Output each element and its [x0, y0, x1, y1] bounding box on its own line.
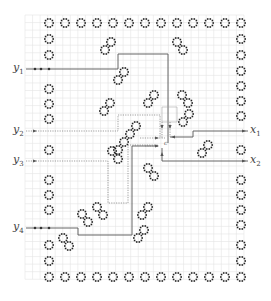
border-ring-top [172, 18, 182, 28]
pair-ring-b [98, 210, 108, 220]
border-ring-right [236, 96, 246, 106]
center-marker-label: c [164, 139, 168, 146]
border-ring-right [236, 190, 246, 200]
border-ring-top [140, 18, 150, 28]
border-ring-bottom [188, 272, 198, 282]
pair-ring-b [105, 98, 115, 108]
border-ring-bottom [44, 272, 54, 282]
border-ring-right [236, 205, 246, 215]
border-ring-left [44, 50, 54, 60]
border-ring-bottom [204, 272, 214, 282]
input-label-y2: y2 [13, 124, 24, 138]
output-label-x1: x1 [250, 124, 261, 138]
border-ring-left [44, 205, 54, 215]
pair-ring-b [184, 109, 194, 119]
pair-ring-b [113, 154, 123, 164]
border-ring-right [236, 220, 246, 230]
border-ring-left [44, 34, 54, 44]
junction-dot [40, 68, 43, 71]
arrow-icon [33, 129, 37, 132]
border-ring-left [44, 114, 54, 124]
input-label-y4: y4 [13, 221, 24, 235]
border-ring-left [44, 84, 54, 94]
border-ring-bottom [108, 272, 118, 282]
border-ring-left [44, 145, 54, 155]
pair-ring-a [113, 75, 123, 85]
border-ring-top [108, 18, 118, 28]
border-ring-left [44, 99, 54, 109]
input-label-y3: y3 [13, 154, 24, 168]
arrow-icon [155, 136, 159, 139]
ring-layer [44, 18, 246, 282]
pair-ring-b [149, 90, 159, 100]
border-ring-bottom [124, 272, 134, 282]
arrow-icon [33, 159, 37, 162]
output-label-x2: x2 [250, 154, 261, 168]
pair-ring-a [177, 90, 187, 100]
junction-dot [40, 227, 43, 230]
center-box [162, 107, 177, 122]
input-label-y1: y1 [13, 62, 24, 76]
border-ring-right [236, 81, 246, 91]
pair-ring-a [143, 163, 153, 173]
junction-dot [34, 227, 37, 230]
pair-ring-b [183, 98, 193, 108]
pair-ring-b [178, 45, 188, 55]
border-ring-top [76, 18, 86, 28]
wire-layer [26, 54, 248, 235]
border-ring-right [236, 175, 246, 185]
pair-ring-a [178, 117, 188, 127]
border-ring-top [204, 18, 214, 28]
pair-ring-a [125, 129, 135, 139]
junction-dot [48, 68, 51, 71]
border-ring-bottom [60, 272, 70, 282]
border-ring-right [236, 145, 246, 155]
border-ring-top [44, 18, 54, 28]
junction-dot [34, 68, 37, 71]
pair-ring-a [113, 145, 123, 155]
border-ring-right [236, 111, 246, 121]
border-ring-bottom [236, 272, 246, 282]
border-ring-left [44, 190, 54, 200]
pair-ring-b [64, 241, 74, 251]
border-ring-top [124, 18, 134, 28]
circuit-diagram: c [0, 0, 271, 301]
pair-ring-b [131, 121, 141, 131]
pair-ring-b [119, 137, 129, 147]
border-ring-top [236, 18, 246, 28]
pair-ring-b [149, 171, 159, 181]
border-ring-right [236, 34, 246, 44]
border-ring-bottom [172, 272, 182, 282]
border-ring-top [60, 18, 70, 28]
border-ring-right [236, 50, 246, 60]
border-ring-top [188, 18, 198, 28]
border-ring-left [44, 175, 54, 185]
pair-ring-a [100, 45, 110, 55]
pair-ring-a [143, 98, 153, 108]
border-ring-bottom [76, 272, 86, 282]
junction-dot [48, 227, 51, 230]
border-ring-bottom [140, 272, 150, 282]
pair-ring-b [203, 140, 213, 150]
